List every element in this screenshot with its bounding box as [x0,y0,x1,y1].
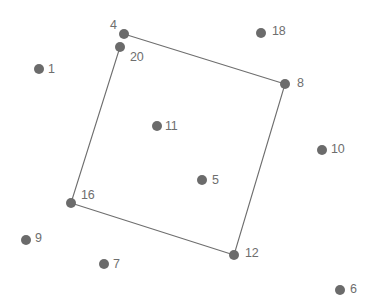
polygon-edge-16-20 [71,47,120,203]
point-label-12: 12 [245,246,259,260]
data-point-11[interactable] [152,121,162,131]
polygon-edge-12-16 [71,203,234,255]
data-point-4[interactable] [119,29,129,39]
point-labels-group: 4201818111051691276 [35,18,357,296]
point-label-7: 7 [113,257,120,271]
point-label-16: 16 [81,188,95,202]
point-label-5: 5 [212,173,219,187]
point-label-9: 9 [35,231,42,245]
point-label-8: 8 [297,76,304,90]
point-label-4: 4 [110,18,117,32]
point-label-20: 20 [130,50,144,64]
data-point-12[interactable] [229,250,239,260]
point-label-1: 1 [48,62,55,76]
point-label-10: 10 [331,142,345,156]
data-point-9[interactable] [21,235,31,245]
data-point-16[interactable] [66,198,76,208]
data-point-5[interactable] [197,175,207,185]
data-point-8[interactable] [280,79,290,89]
scatter-plot-svg: 4201818111051691276 [0,0,367,303]
scatter-plot-canvas: 4201818111051691276 [0,0,367,303]
data-point-18[interactable] [256,28,266,38]
data-point-1[interactable] [34,64,44,74]
point-label-11: 11 [165,119,178,133]
polygon-edges-group [71,34,285,255]
polygon-edge-8-12 [234,84,285,255]
data-point-6[interactable] [335,285,345,295]
data-point-10[interactable] [317,145,327,155]
data-point-7[interactable] [99,259,109,269]
polygon-edge-4-8 [124,34,285,84]
point-label-18: 18 [272,24,286,38]
data-point-20[interactable] [115,42,125,52]
point-label-6: 6 [350,282,357,296]
data-points-group [21,28,345,295]
